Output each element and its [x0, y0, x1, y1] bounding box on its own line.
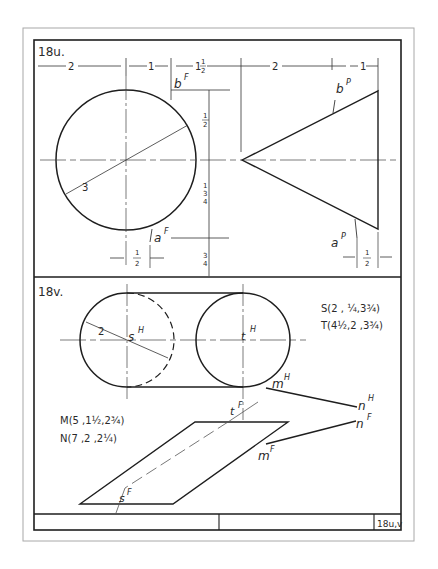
side-dim-mid-num: 3	[203, 190, 207, 198]
point-sH: s	[128, 330, 134, 344]
point-nF: n	[356, 417, 364, 431]
side-dim-mid-den: 4	[203, 198, 208, 206]
point-nH-sup: H	[368, 394, 374, 403]
point-bF-sup: F	[184, 73, 189, 82]
point-sH-sup: H	[138, 326, 144, 335]
point-mF: m	[258, 449, 270, 463]
bottom-dim-right-num: 1	[365, 249, 369, 257]
side-dim-top-num: 1	[203, 112, 207, 120]
bottom-dim-right-den: 2	[365, 260, 369, 268]
point-aP: a	[331, 236, 338, 250]
problem-18u: 18u. 2 1 1 1 2 2 1	[38, 45, 398, 276]
point-sF: s	[119, 492, 125, 505]
point-tH-sup: H	[250, 325, 256, 334]
dim-1-left: 1	[148, 61, 154, 72]
point-tF: t	[230, 405, 235, 418]
point-aF: a	[154, 231, 161, 245]
radius-label-2: 2	[98, 326, 104, 337]
point-tH: t	[241, 330, 246, 343]
bottom-dim-left-num: 1	[135, 249, 139, 257]
side-dim-top-den: 2	[203, 121, 207, 129]
problem-18v-label: 18v.	[38, 285, 63, 299]
problem-18u-label: 18u.	[38, 45, 65, 59]
line-mF-nF	[266, 421, 356, 444]
side-dim-mid-whole: 1	[203, 182, 207, 190]
point-aF-sup: F	[164, 227, 169, 236]
point-mH: m	[272, 377, 284, 391]
point-bP: b	[336, 82, 344, 96]
drawing-sheet: 18u. 2 1 1 1 2 2 1	[0, 0, 438, 569]
point-nF-sup: F	[367, 413, 372, 422]
point-bP-sup: P	[346, 78, 351, 87]
coord-N: N(7 ,2 ,2¼)	[60, 433, 117, 444]
dim-1-half-den: 2	[201, 67, 205, 75]
sheet-id: 18u,v	[377, 519, 403, 529]
point-aP-sup: P	[341, 232, 346, 241]
problem-18v: 18v. 2 s H t H S(2 , ¼,3¾) T(4½,2 ,3¾) M…	[38, 284, 383, 513]
side-dim-bot-num: 3	[203, 252, 207, 260]
coord-M: M(5 ,1½,2¾)	[60, 415, 125, 426]
bottom-dim-left-den: 2	[135, 260, 139, 268]
dim-1-right: 1	[360, 61, 366, 72]
inner-frame	[34, 40, 401, 530]
top-dimension-line	[38, 58, 378, 152]
dim-1-half-num: 1	[201, 58, 205, 66]
point-nH: n	[358, 399, 366, 413]
radius-label-3: 3	[82, 182, 88, 193]
point-tF-sup: F	[238, 401, 243, 410]
point-sF-sup: F	[127, 488, 132, 497]
point-mH-sup: H	[284, 373, 290, 382]
line-sF-tF-hidden	[125, 422, 228, 488]
dim-2-left: 2	[68, 61, 74, 72]
coord-T: T(4½,2 ,3¾)	[320, 320, 383, 331]
point-bF: b	[174, 77, 182, 91]
coord-S: S(2 , ¼,3¾)	[321, 303, 380, 314]
dim-2-right: 2	[272, 61, 278, 72]
point-mF-sup: F	[270, 445, 275, 454]
side-dim-bot-den: 4	[203, 260, 208, 268]
